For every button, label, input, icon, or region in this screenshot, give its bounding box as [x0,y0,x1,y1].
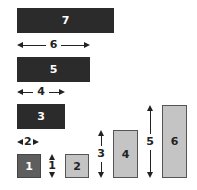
height-arrow-3-label: 3 [97,146,105,162]
height-arrow-1-label: 1 [48,160,56,172]
arrow-right-icon [59,89,65,95]
width-arrow-4-label: 4 [33,86,49,98]
bar-3-label: 3 [37,110,45,123]
bar-5: 5 [17,57,90,82]
arrow-right-icon [84,42,90,48]
arrow-down-icon [98,172,104,178]
height-arrow-1: 1 [46,154,58,178]
width-arrow-6: 6 [17,39,90,51]
height-arrow-5-label: 5 [146,134,154,150]
width-arrow-2-label: 2 [23,136,33,148]
column-6-label: 6 [171,135,179,148]
square-1: 1 [17,154,41,178]
square-2-label: 2 [73,160,81,173]
height-arrow-3: 3 [95,130,107,178]
bar-3: 3 [17,104,65,129]
width-arrow-4: 4 [17,86,65,98]
arrow-down-icon [147,172,153,178]
width-arrow-6-label: 6 [46,39,62,51]
square-1-label: 1 [25,160,33,173]
column-4: 4 [113,130,138,178]
column-6: 6 [162,105,187,178]
bar-5-label: 5 [50,63,58,76]
arrow-down-icon [49,172,55,178]
arrow-right-icon [33,139,39,145]
bar-7: 7 [17,8,114,33]
height-arrow-5: 5 [144,105,156,178]
width-arrow-2: 2 [17,136,41,148]
column-4-label: 4 [122,148,130,161]
square-2: 2 [65,154,89,178]
bar-7-label: 7 [62,14,70,27]
